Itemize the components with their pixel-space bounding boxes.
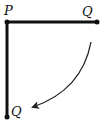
rotation-arrow-icon: [33, 42, 91, 107]
rotating-rod-diagram: P Q Q: [0, 0, 105, 128]
end-point-q-initial: [95, 20, 100, 25]
label-p: P: [3, 3, 13, 18]
pivot-point-p: [5, 20, 10, 25]
label-q-initial: Q: [82, 4, 93, 19]
label-q-final: Q: [11, 104, 22, 119]
end-point-q-final: [5, 115, 10, 120]
